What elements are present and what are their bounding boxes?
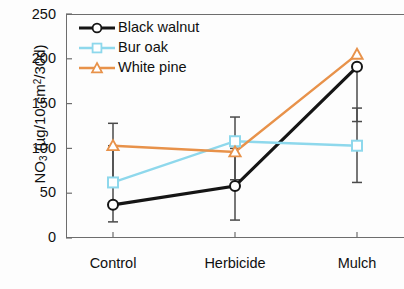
legend-label: Bur oak xyxy=(118,40,168,55)
x-axis-tick-label-mulch: Mulch xyxy=(297,256,404,271)
y-axis-tick-label: 200 xyxy=(16,51,56,66)
data-point-marker xyxy=(352,141,362,151)
legend-key-square-icon xyxy=(78,40,116,56)
y-axis-tick-label: 0 xyxy=(16,230,56,245)
data-point-marker xyxy=(108,177,118,187)
legend-item-black-walnut[interactable]: Black walnut xyxy=(78,18,199,37)
data-point-marker xyxy=(230,181,240,191)
y-axis-tick-label: 100 xyxy=(16,141,56,156)
y-axis-tick-label: 250 xyxy=(16,7,56,22)
legend-key-circle-icon xyxy=(78,20,116,36)
legend-item-bur-oak[interactable]: Bur oak xyxy=(78,38,199,57)
y-axis-tick-label: 50 xyxy=(16,185,56,200)
data-point-marker xyxy=(351,49,362,59)
legend-label: White pine xyxy=(118,60,187,75)
data-point-marker xyxy=(108,200,118,210)
legend: Black walnut Bur oak White pine xyxy=(78,18,199,77)
legend-label: Black walnut xyxy=(118,20,199,35)
y-axis-title-prefix: NO xyxy=(31,161,48,184)
plot-area: Black walnut Bur oak White pine xyxy=(66,14,404,238)
legend-key-triangle-icon xyxy=(78,60,116,76)
y-axis-title-subscript: 3 xyxy=(38,155,49,161)
y-axis-tick-label: 150 xyxy=(16,96,56,111)
x-axis-tick-label-control: Control xyxy=(53,256,173,271)
legend-item-white-pine[interactable]: White pine xyxy=(78,58,199,77)
y-axis-title-superscript: 2 xyxy=(32,79,43,85)
chart-figure: NO3 (µg/10 cm2/30d) 250 200 150 100 50 0… xyxy=(0,0,404,289)
data-point-marker xyxy=(352,62,362,72)
x-axis-tick-label-herbicide: Herbicide xyxy=(175,256,295,271)
